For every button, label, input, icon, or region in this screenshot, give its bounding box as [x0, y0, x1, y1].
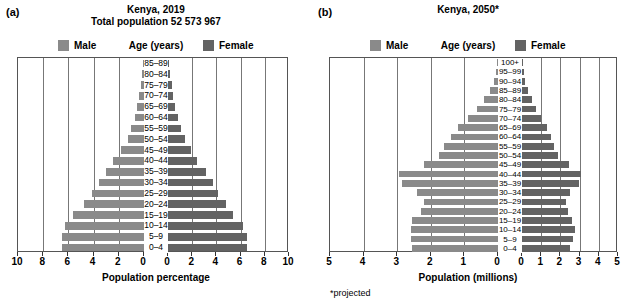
pyramid-row: [330, 87, 616, 94]
age-group-label: 60–64: [144, 112, 168, 123]
panel-a-titles: Kenya, 2019 Total population 52 573 967: [0, 4, 312, 28]
female-bar: [522, 236, 573, 243]
axis-tick-label: 0: [494, 256, 500, 267]
axis-tick-label: 6: [237, 256, 243, 267]
female-bar: [522, 161, 569, 168]
axis-tick-label: 4: [360, 256, 366, 267]
pyramid-row: [330, 115, 616, 122]
axis-tick-label: 2: [115, 256, 121, 267]
pyramid-row: [330, 96, 616, 103]
female-bar: [168, 211, 233, 219]
panel-b: (b) Kenya, 2050* Male Age (years) Female…: [312, 0, 624, 307]
axis-tick-label: 0: [164, 256, 170, 267]
female-bar: [168, 190, 218, 198]
female-bar: [522, 171, 581, 178]
male-bar: [424, 199, 498, 206]
age-group-label: 70–74: [144, 91, 168, 102]
axis-tick-label: 1: [461, 256, 467, 267]
pyramid-row: [330, 171, 616, 178]
axis-tick-label: 8: [261, 256, 267, 267]
female-bar: [522, 115, 541, 122]
pyramid-row: [330, 189, 616, 196]
axis-tick-label: 2: [188, 256, 194, 267]
panel-a: (a) Kenya, 2019 Total population 52 573 …: [0, 0, 312, 307]
male-bar: [412, 245, 498, 252]
age-group-label: 35–39: [144, 166, 168, 177]
age-group-label: 20–24: [498, 207, 522, 216]
female-bar: [168, 125, 181, 133]
male-bar: [411, 226, 498, 233]
male-bar: [421, 208, 498, 215]
age-group-label: 75–79: [144, 80, 168, 91]
panel-a-plot-area: 85–8980–8475–7970–7465–6960–6455–5950–54…: [17, 57, 288, 252]
male-bar: [137, 103, 144, 111]
age-group-label: 15–19: [498, 216, 522, 225]
female-bar: [522, 59, 523, 66]
male-bar: [84, 200, 144, 208]
age-group-label: 85–89: [144, 58, 168, 69]
male-bar: [65, 222, 144, 230]
female-bar: [522, 143, 554, 150]
panel-b-axis-title: Population (millions): [312, 272, 624, 283]
age-group-label: 30–34: [144, 177, 168, 188]
female-bar: [522, 245, 570, 252]
panel-b-legend-female-label: Female: [531, 40, 565, 51]
female-bar: [522, 189, 570, 196]
panel-a-legend-female: Female: [203, 40, 253, 51]
pyramid-row: [330, 59, 616, 66]
female-bar: [168, 103, 175, 111]
age-group-label: 95–99: [498, 67, 522, 76]
panel-b-plot-area: 100+95–9990–9485–8980–8475–7970–7465–696…: [329, 57, 617, 252]
axis-tick-label: 5: [614, 256, 620, 267]
female-bar: [168, 244, 247, 252]
female-bar: [168, 222, 243, 230]
female-bar: [522, 87, 528, 94]
axis-tick-label: 0: [518, 256, 524, 267]
male-bar: [121, 146, 144, 154]
axis-tick-label: 10: [282, 256, 293, 267]
age-group-label: 45–49: [498, 160, 522, 169]
age-group-label: 10–14: [144, 221, 168, 232]
panel-a-legend-female-label: Female: [219, 40, 253, 51]
age-group-label: 55–59: [498, 142, 522, 151]
female-bar: [168, 179, 213, 187]
age-group-label: 15–19: [144, 210, 168, 221]
pyramid-row: [330, 134, 616, 141]
male-bar: [490, 87, 498, 94]
pyramid-row: [330, 106, 616, 113]
age-group-label: 25–29: [144, 188, 168, 199]
panel-b-x-axis: 543210012345: [312, 252, 624, 270]
pyramid-row: [330, 161, 616, 168]
male-bar: [402, 180, 498, 187]
axis-tick-label: 4: [213, 256, 219, 267]
female-bar: [522, 78, 525, 85]
male-bar: [99, 179, 144, 187]
pyramid-row: [330, 208, 616, 215]
age-group-label: 40–44: [144, 156, 168, 167]
male-bar: [477, 106, 498, 113]
male-bar: [411, 236, 498, 243]
panel-a-title: Kenya, 2019: [0, 4, 312, 16]
female-bar: [168, 146, 191, 154]
female-bar: [522, 106, 536, 113]
male-bar: [106, 168, 144, 176]
male-bar: [444, 143, 498, 150]
female-bar: [522, 217, 572, 224]
age-group-label: 50–54: [144, 134, 168, 145]
age-group-label: 85–89: [498, 86, 522, 95]
male-bar: [128, 135, 144, 143]
panel-a-x-axis: 10864200246810: [0, 252, 312, 270]
female-bar: [168, 92, 173, 100]
age-group-label: 45–49: [144, 145, 168, 156]
pyramid-row: [330, 226, 616, 233]
male-bar: [399, 171, 498, 178]
pyramid-row: [330, 217, 616, 224]
age-group-label: 65–69: [498, 123, 522, 132]
male-bar: [135, 114, 144, 122]
pyramid-row: [330, 245, 616, 252]
male-bar: [62, 244, 144, 252]
male-bar: [412, 217, 498, 224]
male-bar: [458, 124, 498, 131]
female-bar: [168, 81, 172, 89]
age-group-label: 80–84: [144, 69, 168, 80]
